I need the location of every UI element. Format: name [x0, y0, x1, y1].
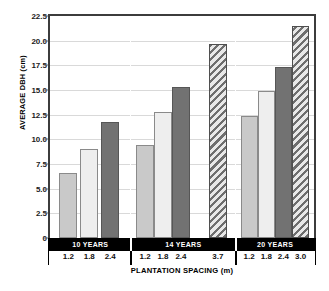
- group-separator: [235, 16, 236, 238]
- x-axis-title: PLANTATION SPACING (m): [48, 266, 316, 275]
- y-tick-mark: [44, 114, 48, 115]
- spacing-row-edge: [48, 251, 49, 265]
- spacing-tick-label: 2.4: [278, 252, 289, 261]
- gridline: [50, 65, 314, 66]
- y-tick-mark: [44, 40, 48, 41]
- spacing-tick-label: 3.7: [212, 252, 223, 261]
- bar: [258, 91, 275, 238]
- y-tick-mark: [44, 90, 48, 91]
- plot-frame: [48, 14, 316, 238]
- spacing-tick-label: 1.8: [84, 252, 95, 261]
- spacing-tick-label: 2.4: [175, 252, 186, 261]
- y-tick-label: 22.5: [17, 12, 47, 21]
- bar: [154, 112, 171, 238]
- y-tick-label: 12.5: [17, 110, 47, 119]
- y-tick-mark: [44, 16, 48, 17]
- y-tick-label: 17.5: [17, 61, 47, 70]
- bar: [241, 116, 258, 238]
- spacing-row-edge: [315, 251, 316, 265]
- spacing-tick-label: 3.0: [295, 252, 306, 261]
- spacing-tick-row: 1.21.82.41.21.82.43.71.21.82.43.0: [48, 251, 316, 266]
- age-band-label: 14 YEARS: [131, 238, 237, 251]
- spacing-tick-label: 1.2: [139, 252, 150, 261]
- y-tick-label: 2.5: [17, 209, 47, 218]
- y-tick-label: 15.0: [17, 86, 47, 95]
- spacing-tick-label: 1.8: [261, 252, 272, 261]
- y-tick-mark: [44, 65, 48, 66]
- age-band: 10 YEARS14 YEARS20 YEARS: [48, 238, 316, 251]
- y-tick-label: 7.5: [17, 160, 47, 169]
- bar: [275, 67, 292, 238]
- bar: [172, 87, 189, 238]
- spacing-tick-label: 1.2: [244, 252, 255, 261]
- spacing-tick-label: 1.8: [157, 252, 168, 261]
- gridline: [50, 41, 314, 42]
- age-band-label: 10 YEARS: [50, 238, 131, 251]
- bar: [136, 145, 153, 238]
- bar: [101, 122, 119, 238]
- plot-area: [50, 16, 314, 238]
- age-band-label: 20 YEARS: [236, 238, 314, 251]
- group-separator: [130, 16, 131, 238]
- y-tick-mark: [44, 188, 48, 189]
- y-tick-label: 0: [17, 234, 47, 243]
- bar: [209, 44, 226, 238]
- bar: [59, 173, 77, 238]
- y-tick-mark: [44, 164, 48, 165]
- spacing-tick-label: 2.4: [105, 252, 116, 261]
- spacing-row-divider: [235, 251, 237, 265]
- y-tick-label: 20.0: [17, 36, 47, 45]
- y-tick-label: 10.0: [17, 135, 47, 144]
- y-tick-label: 5.0: [17, 184, 47, 193]
- y-tick-mark: [44, 139, 48, 140]
- bar: [292, 26, 309, 238]
- bar-chart: AVERAGE DBH (cm) 22.520.017.515.012.510.…: [0, 0, 329, 291]
- spacing-row-divider: [130, 251, 132, 265]
- y-tick-mark: [44, 213, 48, 214]
- spacing-tick-label: 1.2: [63, 252, 74, 261]
- bar: [80, 149, 98, 238]
